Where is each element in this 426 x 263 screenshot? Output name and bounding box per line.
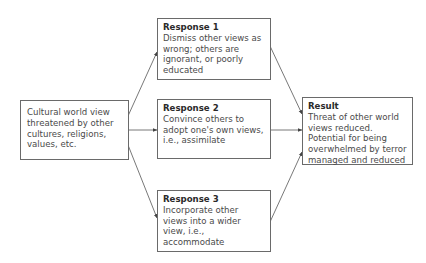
response-3-text: Incorporate other views into a wider vie… <box>163 205 265 248</box>
response-2-title: Response 2 <box>163 103 265 114</box>
arrow-source-to-response-1 <box>128 52 157 116</box>
response-3-title: Response 3 <box>163 194 265 205</box>
response-3-box: Response 3 Incorporate other views into … <box>157 190 271 252</box>
source-box: Cultural world view threatened by other … <box>20 100 129 160</box>
arrow-response-3-to-result <box>270 152 302 222</box>
response-2-text: Convince others to adopt one's own views… <box>163 114 265 146</box>
source-text: Cultural world view threatened by other … <box>27 107 122 150</box>
arrow-source-to-response-3 <box>128 145 157 218</box>
response-2-box: Response 2 Convince others to adopt one'… <box>157 99 271 159</box>
arrow-response-1-to-result <box>270 46 302 114</box>
result-box: Result Threat of other world views reduc… <box>302 97 413 165</box>
result-text: Threat of other world views reduced. Pot… <box>308 112 407 166</box>
response-1-title: Response 1 <box>163 22 265 33</box>
response-1-box: Response 1 Dismiss other views as wrong;… <box>157 18 271 80</box>
response-1-text: Dismiss other views as wrong; others are… <box>163 33 265 76</box>
result-title: Result <box>308 101 407 112</box>
